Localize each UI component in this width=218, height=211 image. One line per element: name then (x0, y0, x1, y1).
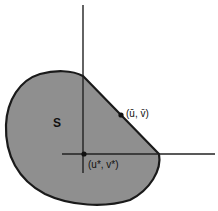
point-u-star-v-star (81, 151, 86, 156)
diagram-canvas: S (ū, v̄) (u*, v*) (0, 0, 218, 211)
point-bar-label: (ū, v̄) (126, 108, 149, 119)
point-star-label: (u*, v*) (88, 159, 119, 170)
region-label: S (53, 116, 61, 130)
point-u-bar-v-bar (118, 112, 123, 117)
